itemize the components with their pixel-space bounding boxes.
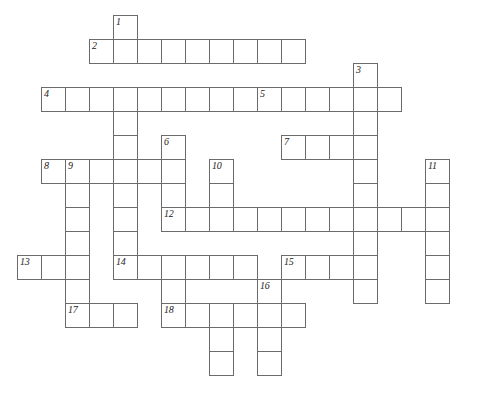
- crossword-cell[interactable]: [113, 111, 138, 136]
- crossword-cell[interactable]: [281, 87, 306, 112]
- crossword-cell[interactable]: [305, 87, 330, 112]
- crossword-cell[interactable]: [65, 207, 90, 232]
- crossword-cell[interactable]: [209, 303, 234, 328]
- crossword-cell[interactable]: 3: [353, 63, 378, 88]
- crossword-cell[interactable]: [161, 183, 186, 208]
- crossword-cell[interactable]: [161, 255, 186, 280]
- crossword-cell[interactable]: 4: [41, 87, 66, 112]
- crossword-cell[interactable]: [305, 135, 330, 160]
- crossword-cell[interactable]: [353, 207, 378, 232]
- crossword-cell[interactable]: [329, 135, 354, 160]
- crossword-cell[interactable]: [425, 183, 450, 208]
- crossword-cell[interactable]: [425, 231, 450, 256]
- crossword-cell[interactable]: [89, 87, 114, 112]
- crossword-cell[interactable]: [353, 159, 378, 184]
- crossword-cell[interactable]: [137, 159, 162, 184]
- crossword-cell[interactable]: [233, 303, 258, 328]
- crossword-cell[interactable]: [65, 87, 90, 112]
- crossword-cell[interactable]: [161, 39, 186, 64]
- crossword-cell[interactable]: [113, 183, 138, 208]
- crossword-cell[interactable]: 5: [257, 87, 282, 112]
- crossword-cell[interactable]: [377, 207, 402, 232]
- crossword-cell[interactable]: [209, 207, 234, 232]
- crossword-cell[interactable]: [257, 39, 282, 64]
- crossword-cell[interactable]: 1: [113, 15, 138, 40]
- crossword-cell[interactable]: [425, 279, 450, 304]
- crossword-cell[interactable]: [113, 231, 138, 256]
- crossword-cell[interactable]: [113, 159, 138, 184]
- crossword-cell[interactable]: [185, 303, 210, 328]
- crossword-cell[interactable]: [281, 39, 306, 64]
- crossword-cell[interactable]: [161, 279, 186, 304]
- crossword-cell[interactable]: [65, 255, 90, 280]
- crossword-cell[interactable]: [425, 255, 450, 280]
- crossword-cell[interactable]: 8: [41, 159, 66, 184]
- crossword-cell[interactable]: [137, 87, 162, 112]
- crossword-cell[interactable]: [353, 231, 378, 256]
- crossword-cell[interactable]: [185, 207, 210, 232]
- crossword-cell[interactable]: [209, 351, 234, 376]
- crossword-cell[interactable]: [209, 327, 234, 352]
- crossword-cell[interactable]: [113, 303, 138, 328]
- crossword-cell[interactable]: [305, 207, 330, 232]
- crossword-cell[interactable]: 15: [281, 255, 306, 280]
- crossword-cell[interactable]: [257, 327, 282, 352]
- crossword-cell[interactable]: [377, 87, 402, 112]
- crossword-cell[interactable]: [353, 87, 378, 112]
- crossword-cell[interactable]: 14: [113, 255, 138, 280]
- crossword-cell[interactable]: [209, 255, 234, 280]
- crossword-cell[interactable]: [185, 255, 210, 280]
- crossword-cell[interactable]: [353, 279, 378, 304]
- crossword-cell[interactable]: [113, 39, 138, 64]
- crossword-cell[interactable]: 7: [281, 135, 306, 160]
- crossword-cell[interactable]: [137, 39, 162, 64]
- crossword-cell[interactable]: [233, 207, 258, 232]
- crossword-cell[interactable]: [401, 207, 426, 232]
- crossword-cell[interactable]: [209, 183, 234, 208]
- crossword-cell[interactable]: [161, 87, 186, 112]
- crossword-cell[interactable]: [425, 207, 450, 232]
- crossword-cell[interactable]: [353, 183, 378, 208]
- crossword-cell[interactable]: [305, 255, 330, 280]
- crossword-cell[interactable]: 13: [17, 255, 42, 280]
- crossword-cell[interactable]: [281, 207, 306, 232]
- crossword-cell[interactable]: [89, 303, 114, 328]
- crossword-cell[interactable]: 11: [425, 159, 450, 184]
- crossword-cell[interactable]: [41, 255, 66, 280]
- crossword-cell[interactable]: [233, 87, 258, 112]
- crossword-cell[interactable]: 10: [209, 159, 234, 184]
- crossword-cell[interactable]: [113, 87, 138, 112]
- crossword-cell[interactable]: [209, 39, 234, 64]
- crossword-cell[interactable]: [65, 183, 90, 208]
- crossword-cell[interactable]: [353, 135, 378, 160]
- crossword-cell[interactable]: 9: [65, 159, 90, 184]
- crossword-cell[interactable]: 18: [161, 303, 186, 328]
- crossword-cell[interactable]: 12: [161, 207, 186, 232]
- crossword-cell[interactable]: [65, 279, 90, 304]
- crossword-cell[interactable]: [329, 207, 354, 232]
- crossword-cell[interactable]: [233, 39, 258, 64]
- crossword-cell[interactable]: 16: [257, 279, 282, 304]
- crossword-cell[interactable]: [257, 351, 282, 376]
- crossword-cell[interactable]: [209, 87, 234, 112]
- crossword-cell[interactable]: [65, 231, 90, 256]
- crossword-cell[interactable]: [329, 87, 354, 112]
- crossword-cell[interactable]: [137, 255, 162, 280]
- crossword-cell[interactable]: [257, 303, 282, 328]
- crossword-cell[interactable]: [185, 87, 210, 112]
- crossword-cell[interactable]: [113, 135, 138, 160]
- crossword-cell[interactable]: [353, 111, 378, 136]
- crossword-cell[interactable]: 2: [89, 39, 114, 64]
- crossword-cell[interactable]: [185, 39, 210, 64]
- crossword-cell[interactable]: [161, 159, 186, 184]
- crossword-cell[interactable]: [113, 207, 138, 232]
- crossword-cell[interactable]: [281, 303, 306, 328]
- crossword-cell[interactable]: [233, 255, 258, 280]
- crossword-cell[interactable]: [89, 159, 114, 184]
- crossword-cell[interactable]: [329, 255, 354, 280]
- crossword-cell[interactable]: 17: [65, 303, 90, 328]
- crossword-cell[interactable]: [353, 255, 378, 280]
- crossword-cell[interactable]: 6: [161, 135, 186, 160]
- crossword-grid[interactable]: 123456789101112131415161718: [0, 0, 478, 410]
- crossword-cell[interactable]: [257, 207, 282, 232]
